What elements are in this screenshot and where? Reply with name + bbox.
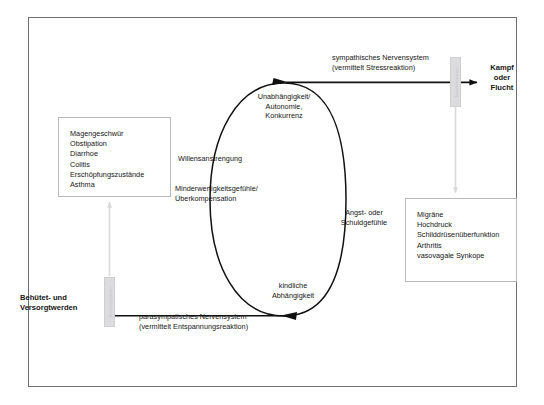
cycle-label-anxiety-guilt: Angst- oder Schuldgefühle: [330, 208, 398, 227]
parasympathetic-pathway-bar-label: Nervensystem: [107, 287, 112, 317]
parasympathetic-pathway-bar: Nervensystem: [104, 277, 115, 327]
cycle-label-inferiority: Minderwertigkeitsgefühle/ Überkompensati…: [175, 184, 258, 203]
sympathetic-nervous-system-label: sympathisches Nervensystem (vermittelt S…: [332, 53, 429, 72]
parasympathetic-symptoms-box: Magengeschwür Obstipation Diarrhoe Colit…: [58, 117, 171, 197]
cycle-label-independence: Unabhängigkeit/ Autonomie, Konkurrenz: [238, 92, 330, 121]
sympathetic-symptoms-box: Migräne Hochdruck Schilddrüsenüberfunkti…: [405, 198, 517, 282]
sympathetic-pathway-bar: Nervensystem: [450, 57, 461, 107]
diagram-canvas: Nervensystem Nervensystem Magengeschwür …: [0, 0, 544, 405]
cycle-label-childlike-dependency: kindliche Abhängigkeit: [256, 281, 330, 300]
parasympathetic-nervous-system-label: parasympatisches Nervensystem (vermittel…: [139, 312, 248, 331]
sympathetic-pathway-bar-label: Nervensystem: [453, 67, 458, 97]
cycle-label-willpower: Willensanstrengung: [178, 154, 242, 164]
fight-or-flight-label: Kampf oder Flucht: [480, 63, 524, 93]
being-cared-for-label: Behütet- und Versorgtwerden: [20, 293, 102, 313]
